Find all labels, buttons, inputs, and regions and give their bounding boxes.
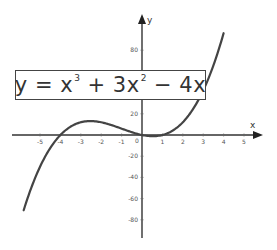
equation-box: y = x3 + 3x2 − 4x [15, 70, 206, 100]
equation-lhs: y = x [15, 73, 73, 97]
y-axis-arrow-icon [138, 14, 146, 24]
y-tick-label: -20 [128, 152, 138, 159]
x-tick-label: -4 [57, 138, 63, 145]
y-tick-label: -80 [128, 216, 138, 223]
y-tick-label: 20 [130, 110, 138, 117]
equation-text: y = x3 + 3x2 − 4x [15, 74, 206, 96]
equation-mid: + 3x [80, 73, 139, 97]
x-tick-label: 4 [222, 138, 226, 145]
x-tick-label: 2 [181, 138, 185, 145]
equation-rhs: − 4x [147, 73, 206, 97]
y-tick-label: -40 [128, 173, 138, 180]
y-tick-label: 80 [130, 46, 138, 53]
function-plot: x y -5-4-3-2-10123458020-20-40-60-80 [0, 0, 277, 250]
x-axis-label: x [250, 120, 256, 130]
x-tick-label: -1 [119, 138, 125, 145]
x-tick-label: -3 [78, 138, 84, 145]
x-tick-label: -2 [98, 138, 104, 145]
x-tick-label: -5 [37, 138, 43, 145]
x-axis-arrow-icon [253, 131, 263, 139]
y-axis-label: y [147, 15, 153, 25]
y-tick-label: -60 [128, 195, 138, 202]
x-tick-label: 1 [160, 138, 164, 145]
x-tick-label: 3 [201, 138, 205, 145]
origin-label: 0 [135, 137, 139, 144]
x-tick-label: 5 [242, 138, 246, 145]
cubic-curve [24, 33, 224, 210]
